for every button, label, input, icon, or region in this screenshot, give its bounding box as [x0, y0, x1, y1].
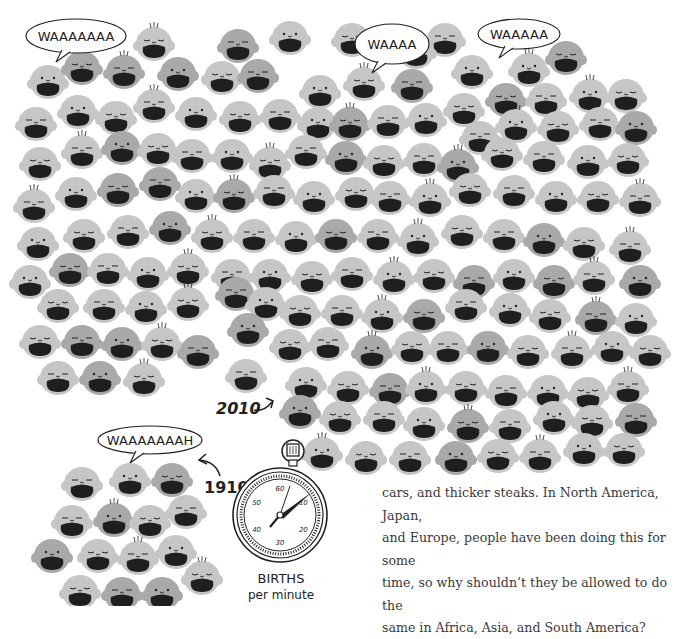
baby-face	[435, 441, 477, 475]
baby-face	[451, 55, 493, 89]
baby-face	[117, 536, 159, 575]
baby-face	[369, 373, 411, 407]
baby-face	[59, 575, 101, 606]
baby-face	[389, 441, 431, 475]
baby-face	[413, 259, 455, 293]
baby-face	[567, 145, 609, 179]
baby-face	[237, 59, 279, 93]
baby-face	[523, 223, 565, 257]
baby-face	[327, 371, 369, 405]
baby-face	[403, 299, 445, 333]
dial-number: 20	[299, 526, 308, 534]
baby-face	[57, 95, 99, 129]
baby-face	[97, 173, 139, 207]
baby-face	[233, 219, 275, 253]
baby-face	[101, 577, 143, 606]
arrowhead-icon	[199, 454, 207, 464]
baby-face	[533, 265, 575, 299]
baby-face	[51, 505, 93, 539]
baby-face	[61, 130, 103, 169]
baby-face	[275, 221, 317, 255]
baby-face	[619, 265, 661, 299]
baby-face	[493, 259, 535, 293]
baby-face	[477, 439, 519, 473]
baby-face	[93, 498, 135, 537]
baby-face	[61, 51, 103, 85]
baby-face	[141, 577, 183, 606]
baby-face	[577, 181, 619, 215]
baby-face	[483, 219, 525, 253]
baby-face	[445, 371, 487, 405]
baby-face	[149, 211, 191, 245]
baby-face	[61, 467, 103, 501]
baby-face	[563, 227, 605, 261]
baby-face	[95, 101, 137, 135]
baby-face	[609, 226, 651, 265]
baby-face	[167, 248, 209, 287]
bubble-text: WAAAAAAA	[38, 29, 115, 44]
baby-face	[133, 22, 175, 61]
baby-face	[61, 325, 103, 359]
baby-face	[63, 219, 105, 253]
baby-face	[279, 295, 321, 329]
baby-face	[55, 177, 97, 211]
body-line-1: cars, and thicker steaks. In North Ameri…	[382, 482, 682, 527]
baby-face	[615, 111, 657, 145]
baby-face	[83, 289, 125, 323]
baby-face	[345, 441, 387, 475]
baby-face	[175, 97, 217, 131]
baby-face	[603, 433, 645, 467]
baby-face	[335, 177, 377, 211]
baby-face	[101, 131, 143, 165]
baby-face	[523, 141, 565, 175]
baby-face	[607, 366, 649, 405]
baby-face	[225, 359, 267, 393]
baby-face	[391, 69, 433, 103]
baby-face	[103, 50, 145, 89]
baby-face	[125, 291, 167, 325]
baby-face	[291, 261, 333, 295]
baby-face	[191, 214, 233, 253]
speech-bubble: WAAAAAAAH	[98, 426, 202, 463]
baby-face	[155, 535, 197, 569]
baby-face	[403, 407, 445, 441]
baby-face	[507, 335, 549, 369]
baby-face	[369, 181, 411, 215]
baby-face	[141, 322, 183, 361]
baby-face	[101, 327, 143, 361]
baby-face	[409, 178, 451, 217]
baby-face	[607, 143, 649, 177]
baby-face	[253, 175, 295, 209]
baby-face	[211, 139, 253, 173]
baby-face	[201, 61, 243, 95]
baby-face	[9, 265, 51, 299]
baby-face	[605, 79, 647, 113]
baby-face	[357, 219, 399, 253]
baby-face	[219, 101, 261, 135]
baby-face	[508, 48, 550, 87]
baby-face	[129, 505, 171, 539]
baby-face	[441, 215, 483, 249]
baby-face	[49, 253, 91, 287]
baby-face	[109, 463, 151, 497]
baby-face	[563, 433, 605, 467]
baby-face	[17, 227, 59, 261]
births-label: BIRTHS	[258, 571, 305, 586]
baby-face	[573, 256, 615, 295]
baby-face	[123, 358, 165, 397]
baby-face	[167, 282, 209, 321]
baby-face	[157, 57, 199, 91]
dial-number: 30	[276, 539, 285, 547]
baby-face	[591, 331, 633, 365]
baby-face	[285, 367, 327, 401]
baby-face	[269, 329, 311, 363]
baby-face	[363, 145, 405, 179]
bubble-text: WAAAA	[368, 37, 417, 52]
baby-face	[615, 403, 657, 437]
baby-face	[213, 174, 255, 213]
baby-face	[447, 404, 489, 443]
baby-face	[217, 29, 259, 63]
baby-face	[519, 434, 561, 473]
baby-face	[545, 41, 587, 75]
